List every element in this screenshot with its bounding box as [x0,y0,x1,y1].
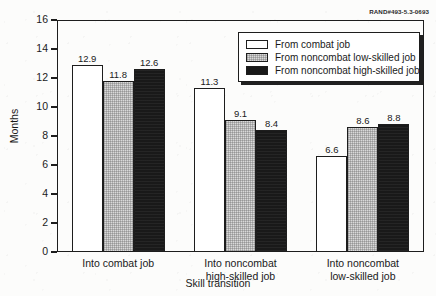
x-axis-category-label: Into combat job [57,257,179,270]
bar: 8.8 [378,124,409,252]
x-axis-category-label-line: high-skilled job [179,270,301,283]
bar: 11.8 [103,81,134,252]
legend-label: From combat job [275,39,350,50]
bar-value-label: 8.6 [356,115,369,126]
x-axis-category-label-line: Into combat job [57,257,179,270]
bar: 12.9 [72,65,103,252]
y-axis-tick-label: 4 [42,187,48,199]
x-axis-category-label: Into noncombatlow-skilled job [302,257,424,282]
bar: 12.6 [134,69,165,252]
y-axis-tick-label: 14 [36,42,48,54]
bar-value-label: 8.4 [265,118,278,129]
legend-label: From noncombat low-skilled job [275,52,416,63]
bar: 9.1 [225,120,256,252]
bar: 6.6 [316,156,347,252]
chart-legend: From combat jobFrom noncombat low-skille… [238,32,420,82]
bar-value-label: 6.6 [325,144,338,155]
bar-value-label: 11.3 [201,76,219,87]
bar: 8.6 [347,127,378,252]
bar-chart-figure: RAND#493-5.3-0693 Months Skill transitio… [0,0,436,296]
legend-label: From noncombat high-skilled job [275,65,420,76]
y-axis-tick-label: 10 [36,100,48,112]
legend-row: From noncombat low-skilled job [246,51,412,64]
bar-value-label: 11.8 [109,69,127,80]
bar-value-label: 12.9 [78,53,97,64]
legend-row: From noncombat high-skilled job [246,64,412,77]
legend-row: From combat job [246,38,412,51]
y-axis-tick-label: 12 [36,71,48,83]
x-axis-category-label-line: Into noncombat [302,257,424,270]
y-axis-tick-label: 8 [42,129,48,141]
bar-value-label: 8.8 [387,112,400,123]
x-axis-category-label: Into noncombathigh-skilled job [179,257,301,282]
rand-document-credit: RAND#493-5.3-0693 [369,8,429,15]
bar-value-label: 9.1 [234,108,247,119]
y-axis-title: Months [8,96,20,156]
legend-color-swatch [246,40,268,49]
x-axis-category-label-line: low-skilled job [302,270,424,283]
bar-value-label: 12.6 [140,57,159,68]
y-axis-tick-label: 16 [36,13,48,25]
y-axis-tick-label: 6 [42,158,48,170]
legend-color-swatch [246,53,268,62]
legend-color-swatch [246,66,268,75]
y-axis-tick-label: 0 [42,245,48,257]
y-axis-tick-label: 2 [42,216,48,228]
bar: 11.3 [194,88,225,252]
bar: 8.4 [256,130,287,252]
x-axis-category-label-line: Into noncombat [179,257,301,270]
